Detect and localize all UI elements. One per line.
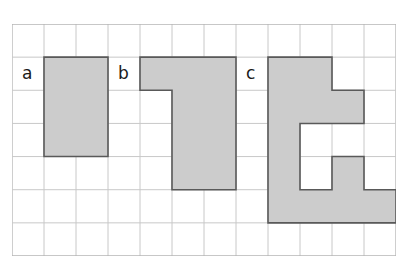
shape-label-b: b (118, 65, 129, 82)
shape-c (268, 57, 396, 223)
shape-b (140, 57, 236, 190)
shapes-grid-figure: a b c (0, 0, 420, 270)
grid-area (12, 24, 396, 256)
shape-label-a: a (22, 65, 32, 82)
shapes-layer (12, 24, 396, 256)
shape-a (44, 57, 108, 156)
shape-label-c: c (246, 65, 255, 82)
